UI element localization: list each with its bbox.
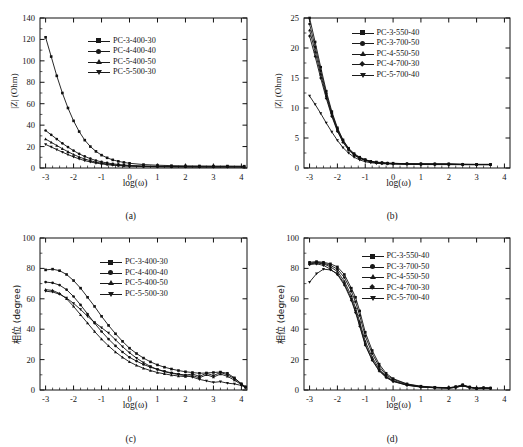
svg-text:25: 25 <box>290 13 299 23</box>
panel-caption-d: (d) <box>262 434 523 444</box>
legend-item: PC-3-400-30 <box>100 258 168 269</box>
svg-text:0: 0 <box>31 163 35 173</box>
legend-item: PC-4-550-50 <box>362 273 430 284</box>
legend-marker-icon <box>362 253 384 261</box>
legend-item: PC-4-550-50 <box>352 49 420 60</box>
svg-text:80: 80 <box>27 77 36 87</box>
y-axis-label-b: |Z| (Ohm) <box>273 61 283 121</box>
svg-text:-3: -3 <box>42 393 49 403</box>
legend-item: PC-5-500-30 <box>88 68 156 79</box>
svg-text:20: 20 <box>27 142 36 152</box>
svg-text:20: 20 <box>290 43 299 53</box>
svg-text:10: 10 <box>290 103 299 113</box>
legend-item-label: PC-4-400-40 <box>125 268 168 279</box>
svg-text:4: 4 <box>239 393 244 403</box>
legend-item-label: PC-5-500-30 <box>113 67 156 78</box>
svg-text:60: 60 <box>27 293 36 303</box>
legend-item: PC-5-700-40 <box>352 70 420 81</box>
legend-item-label: PC-3-550-40 <box>387 251 430 262</box>
legend-marker-icon <box>362 263 384 271</box>
legend-marker-icon <box>100 269 122 277</box>
svg-text:3: 3 <box>474 393 478 403</box>
legend-item: PC-5-400-50 <box>88 57 156 68</box>
svg-text:-3: -3 <box>306 172 313 182</box>
y-axis-label-a: |Z| (Ohm) <box>9 61 19 121</box>
svg-text:0: 0 <box>294 163 298 173</box>
svg-text:0: 0 <box>294 385 298 395</box>
svg-text:100: 100 <box>22 233 35 243</box>
legend-item-label: PC-4-400-40 <box>113 46 156 57</box>
svg-text:-3: -3 <box>42 172 49 182</box>
legend-item-label: PC-5-400-50 <box>113 57 156 68</box>
x-axis-label-a: log(ω) <box>60 178 210 188</box>
legend-item: PC-4-700-30 <box>362 283 430 294</box>
panel-a: -3-2-101234020406080100120140 |Z| (Ohm) … <box>0 0 262 224</box>
legend-marker-icon <box>100 259 122 267</box>
panel-b: -3-2-1012340510152025 |Z| (Ohm) log(ω) P… <box>262 0 523 224</box>
legend-item-label: PC-5-400-50 <box>125 278 168 289</box>
svg-text:15: 15 <box>290 73 299 83</box>
y-axis-label-d: 相位 (degree) <box>273 282 286 346</box>
legend-marker-icon <box>362 284 384 292</box>
panel-d: -3-2-101234020406080100 相位 (degree) log(… <box>262 224 523 447</box>
legend-marker-icon <box>352 71 374 79</box>
legend-item-label: PC-3-400-30 <box>113 36 156 47</box>
legend-item: PC-5-700-40 <box>362 294 430 305</box>
svg-text:60: 60 <box>290 293 299 303</box>
svg-text:140: 140 <box>22 13 35 23</box>
svg-text:20: 20 <box>27 354 36 364</box>
svg-text:4: 4 <box>502 393 507 403</box>
svg-text:3: 3 <box>211 393 215 403</box>
svg-text:0: 0 <box>31 385 35 395</box>
legend-item-label: PC-3-400-30 <box>125 257 168 268</box>
legend-marker-icon <box>362 274 384 282</box>
svg-text:3: 3 <box>211 172 215 182</box>
svg-text:4: 4 <box>239 172 244 182</box>
svg-text:40: 40 <box>27 120 36 130</box>
legend-item-label: PC-4-550-50 <box>377 49 420 60</box>
legend-c: PC-3-400-30PC-4-400-40PC-5-400-50PC-5-50… <box>100 258 168 300</box>
legend-item: PC-4-400-40 <box>100 268 168 279</box>
svg-text:40: 40 <box>290 324 299 334</box>
legend-marker-icon <box>352 61 374 69</box>
legend-marker-icon <box>88 48 110 56</box>
legend-item: PC-3-550-40 <box>362 252 430 263</box>
legend-item-label: PC-5-500-30 <box>125 289 168 300</box>
legend-marker-icon <box>362 295 384 303</box>
legend-marker-icon <box>100 290 122 298</box>
legend-a: PC-3-400-30PC-4-400-40PC-5-400-50PC-5-50… <box>88 36 156 78</box>
panel-caption-c: (c) <box>0 434 262 444</box>
legend-item-label: PC-4-550-50 <box>387 272 430 283</box>
svg-text:20: 20 <box>290 354 299 364</box>
x-axis-label-d: log(ω) <box>324 400 474 410</box>
legend-marker-icon <box>88 37 110 45</box>
legend-marker-icon <box>100 280 122 288</box>
svg-text:80: 80 <box>290 263 299 273</box>
chart-svg-a: -3-2-101234020406080100120140 <box>0 0 261 200</box>
svg-text:80: 80 <box>27 263 36 273</box>
panel-caption-b: (b) <box>262 211 523 221</box>
legend-item: PC-5-400-50 <box>100 279 168 290</box>
legend-marker-icon <box>88 58 110 66</box>
x-axis-label-b: log(ω) <box>324 178 474 188</box>
svg-text:100: 100 <box>22 56 35 66</box>
legend-item: PC-3-400-30 <box>88 36 156 47</box>
legend-item: PC-3-700-50 <box>352 39 420 50</box>
legend-item-label: PC-3-550-40 <box>377 28 420 39</box>
legend-item-label: PC-5-700-40 <box>387 293 430 304</box>
legend-marker-icon <box>352 50 374 58</box>
legend-item: PC-4-700-30 <box>352 60 420 71</box>
chart-svg-c: -3-2-101234020406080100 <box>0 224 261 424</box>
svg-text:60: 60 <box>27 99 36 109</box>
legend-item: PC-3-700-50 <box>362 262 430 273</box>
panel-caption-a: (a) <box>0 211 262 221</box>
svg-text:3: 3 <box>474 172 478 182</box>
legend-item: PC-5-500-30 <box>100 289 168 300</box>
legend-d: PC-3-550-40PC-3-700-50PC-4-550-50PC-4-70… <box>362 252 430 305</box>
panel-c: -3-2-101234020406080100 相位 (degree) log(… <box>0 224 262 447</box>
legend-item: PC-3-550-40 <box>352 28 420 39</box>
svg-text:-3: -3 <box>306 393 313 403</box>
legend-item: PC-4-400-40 <box>88 47 156 58</box>
svg-text:40: 40 <box>27 324 36 334</box>
svg-text:100: 100 <box>286 233 299 243</box>
